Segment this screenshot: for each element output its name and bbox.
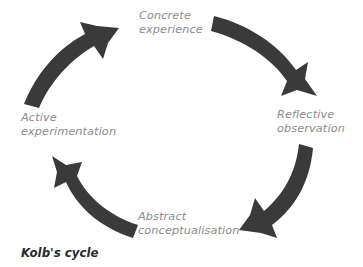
arrow-reflective-to-abstract-icon: [239, 144, 313, 238]
stage-label-line-2: experimentation: [21, 125, 116, 139]
stage-label-line-1: Concrete: [139, 9, 203, 23]
arrow-active-to-concrete-icon: [24, 22, 119, 108]
kolb-cycle-diagram: Concrete experience Reflective observati…: [0, 0, 363, 267]
arrow-concrete-to-reflective-icon: [211, 16, 317, 96]
stage-label-active-experimentation: Active experimentation: [21, 111, 116, 139]
stage-label-concrete-experience: Concrete experience: [139, 9, 203, 37]
stage-label-line-1: Active: [21, 111, 116, 125]
stage-label-abstract-conceptualisation: Abstract conceptualisation: [138, 210, 240, 238]
stage-label-line-2: observation: [277, 122, 345, 136]
stage-label-line-2: conceptualisation: [138, 224, 240, 238]
stage-label-line-1: Abstract: [138, 210, 240, 224]
arrow-abstract-to-active-icon: [52, 156, 138, 238]
stage-label-reflective-observation: Reflective observation: [277, 108, 345, 136]
stage-label-line-2: experience: [139, 23, 203, 37]
stage-label-line-1: Reflective: [277, 108, 345, 122]
diagram-caption: Kolb's cycle: [21, 246, 99, 261]
